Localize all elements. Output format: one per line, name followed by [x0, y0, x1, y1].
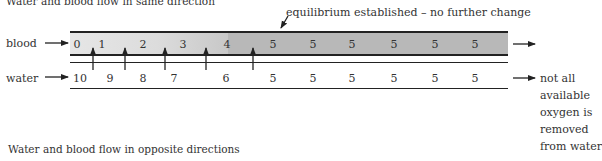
- note-line: not all: [540, 72, 575, 85]
- note-line: oxygen is: [540, 106, 592, 119]
- note-line: available: [540, 89, 590, 102]
- equilibrium-pointer-arrow-icon: [281, 16, 288, 28]
- note-line: removed: [540, 123, 589, 136]
- diffusion-arrows-icon: [93, 48, 253, 70]
- note-line: from water: [540, 140, 602, 153]
- title-opposite-direction: Water and blood flow in opposite directi…: [8, 143, 240, 155]
